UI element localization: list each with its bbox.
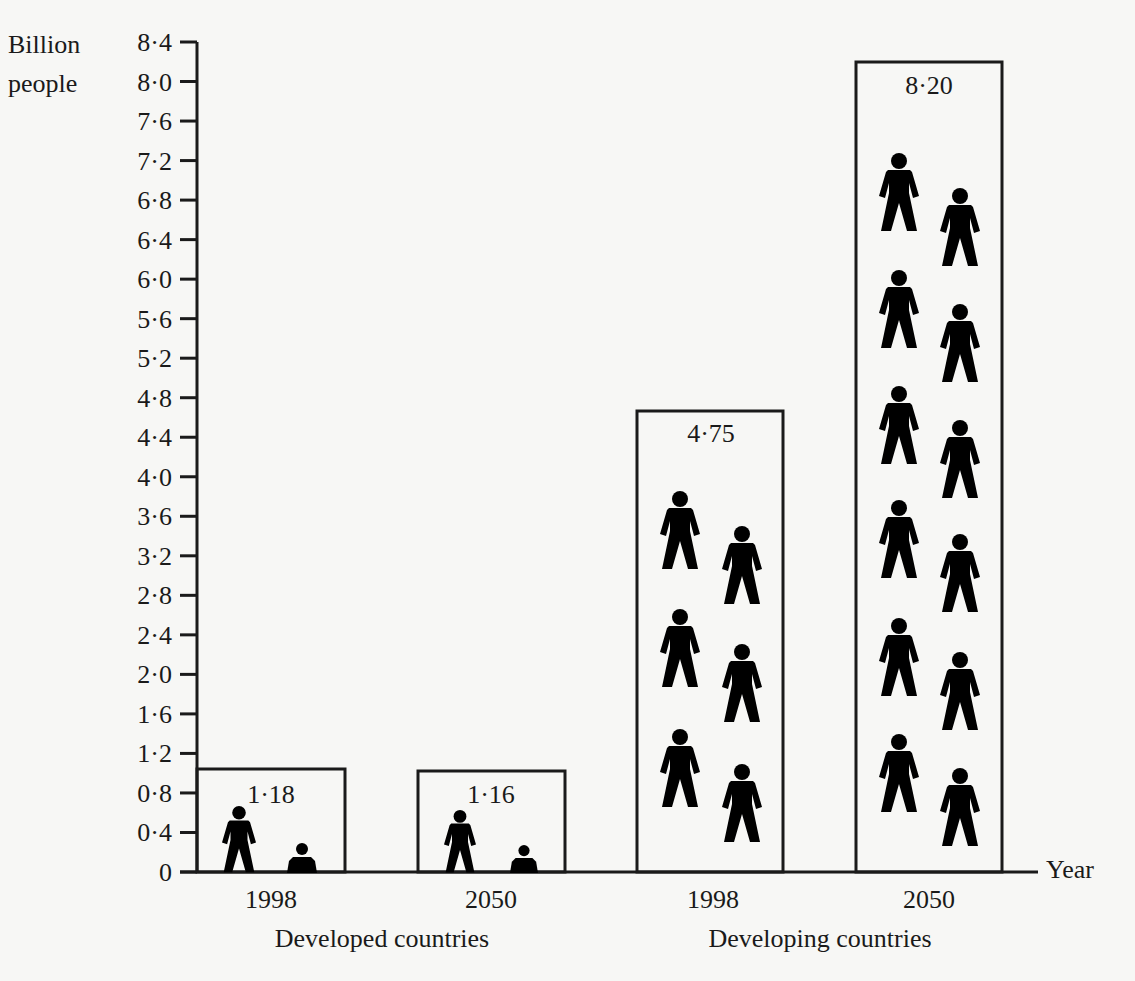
person-icon: [879, 270, 919, 348]
x-tick-developing-2050: 2050: [903, 885, 955, 914]
person-icon: [940, 188, 980, 266]
person-icon: [660, 729, 700, 807]
bar-value-label: 1·18: [247, 780, 295, 809]
y-tick-label: 0: [159, 858, 172, 887]
y-tick-label: 8·0: [137, 68, 172, 97]
person-icon: [940, 304, 980, 382]
person-icon: [879, 153, 919, 231]
person-icon: [722, 764, 762, 842]
person-icon: [722, 526, 762, 604]
y-tick-label: 6·0: [137, 265, 172, 294]
bar-developing-2050: 8·20: [856, 62, 1002, 872]
y-tick-label: 5·6: [137, 305, 172, 334]
bar-developed-1998: 1·18: [197, 769, 345, 873]
population-pictograph-chart: Billion people 00·40·81·21·62·02·42·83·2…: [0, 0, 1135, 981]
person-icon: [722, 644, 762, 722]
x-tick-developed-2050: 2050: [465, 885, 517, 914]
person-icon: [222, 806, 256, 872]
y-axis-ticks: 00·40·81·21·62·02·42·83·23·64·04·44·85·2…: [137, 28, 197, 887]
bar-value-label: 8·20: [905, 71, 953, 100]
child-icon: [287, 843, 317, 873]
y-tick-label: 5·2: [137, 344, 172, 373]
y-tick-label: 2·8: [137, 581, 172, 610]
person-icon: [940, 768, 980, 846]
person-icon: [940, 534, 980, 612]
person-icon: [660, 491, 700, 569]
bar-value-label: 1·16: [467, 780, 515, 809]
y-tick-label: 1·2: [137, 739, 172, 768]
y-tick-label: 8·4: [137, 28, 172, 57]
bar-value-label: 4·75: [687, 419, 735, 448]
group-label-developed: Developed countries: [275, 924, 489, 953]
y-tick-label: 4·8: [137, 384, 172, 413]
y-tick-label: 4·0: [137, 463, 172, 492]
y-tick-label: 4·4: [137, 423, 172, 452]
person-icon: [940, 652, 980, 730]
y-tick-label: 1·6: [137, 700, 172, 729]
x-tick-developed-1998: 1998: [245, 885, 297, 914]
y-tick-label: 0·8: [137, 779, 172, 808]
person-icon: [879, 386, 919, 464]
child-icon: [510, 845, 538, 873]
bar-developing-1998: 4·75: [637, 411, 783, 872]
person-icon: [879, 618, 919, 696]
y-axis-label-line2: people: [8, 69, 77, 98]
bar-developed-2050: 1·16: [418, 771, 565, 873]
y-tick-label: 2·0: [137, 660, 172, 689]
y-tick-label: 3·2: [137, 542, 172, 571]
y-tick-label: 6·8: [137, 186, 172, 215]
person-icon: [660, 609, 700, 687]
group-label-developing: Developing countries: [708, 924, 931, 953]
y-tick-label: 7·6: [137, 107, 172, 136]
y-tick-label: 7·2: [137, 147, 172, 176]
y-tick-label: 3·6: [137, 502, 172, 531]
y-tick-label: 2·4: [137, 621, 172, 650]
person-icon: [879, 734, 919, 812]
y-tick-label: 6·4: [137, 226, 172, 255]
person-icon: [940, 420, 980, 498]
x-axis-label: Year: [1046, 855, 1094, 884]
y-axis-label-line1: Billion: [8, 30, 80, 59]
person-icon: [879, 500, 919, 578]
x-tick-developing-1998: 1998: [687, 885, 739, 914]
person-icon: [444, 810, 476, 872]
y-tick-label: 0·4: [137, 818, 172, 847]
